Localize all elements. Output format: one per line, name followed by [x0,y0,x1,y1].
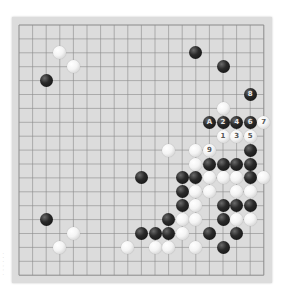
black-stone: A [203,116,216,129]
white-stone [176,213,189,226]
white-stone [162,144,175,157]
black-stone [135,227,148,240]
black-stone [176,185,189,198]
black-stone [162,227,175,240]
black-stone: 4 [230,116,243,129]
black-stone [217,213,230,226]
white-stone: 1 [217,130,230,143]
black-stone [244,158,257,171]
black-stone [176,199,189,212]
go-board[interactable] [12,17,272,283]
white-stone: 5 [244,130,257,143]
black-stone [203,158,216,171]
white-stone: 9 [203,144,216,157]
white-stone [149,241,162,254]
white-stone [67,227,80,240]
black-stone [244,199,257,212]
black-stone [230,227,243,240]
black-stone [244,144,257,157]
board-grid [12,17,272,283]
white-stone [189,158,202,171]
black-stone [203,227,216,240]
white-stone [67,60,80,73]
black-stone [149,227,162,240]
black-stone [217,60,230,73]
white-stone: 3 [230,130,243,143]
white-stone [217,102,230,115]
white-stone [189,144,202,157]
black-stone [40,74,53,87]
black-stone: 8 [244,88,257,101]
black-stone [217,241,230,254]
white-stone [162,241,175,254]
black-stone [217,158,230,171]
black-stone [230,158,243,171]
watermark-text: · · · · · · [0,252,6,275]
black-stone [217,199,230,212]
black-stone: 6 [244,116,257,129]
white-stone [244,213,257,226]
white-stone [176,227,189,240]
black-stone [40,213,53,226]
white-stone [244,185,257,198]
black-stone: 2 [217,116,230,129]
white-stone [217,171,230,184]
